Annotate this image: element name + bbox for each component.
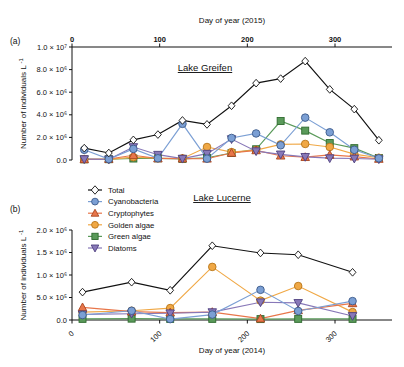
- x-tick-label-a-3: 300: [329, 35, 342, 44]
- data-point: [203, 143, 211, 151]
- panel-a: 0.02.0 × 10⁶4.0 × 10⁶6.0 × 10⁶8.0 × 10⁶1…: [37, 35, 392, 165]
- data-point: [326, 129, 334, 137]
- data-point: [130, 136, 137, 144]
- legend-item-cryptophytes[interactable]: Cryptophytes: [88, 209, 154, 218]
- data-point: [203, 155, 211, 163]
- data-point: [349, 268, 356, 276]
- legend-label-5: Diatoms: [108, 244, 137, 253]
- data-point: [351, 146, 359, 154]
- data-point: [295, 251, 302, 259]
- data-point: [294, 307, 302, 315]
- series-line-golden-algae-b: [83, 267, 353, 312]
- y-tick-label-a-5: 1.0 × 10⁷: [37, 43, 67, 52]
- panel-label-a: (a): [10, 36, 21, 46]
- legend-marker-circle-icon: [92, 198, 99, 205]
- legend-item-total[interactable]: Total: [88, 186, 125, 195]
- data-point: [257, 249, 264, 257]
- panel-b: 0.05.0 × 10⁵1.0 × 10⁶1.5 × 10⁶2.0 × 10⁶0…: [37, 226, 392, 345]
- legend-marker-circle-icon: [92, 221, 99, 228]
- legend-label-2: Cryptophytes: [108, 209, 154, 218]
- legend-item-golden-algae[interactable]: Golden algae: [88, 221, 154, 230]
- series-markers-cryptophytes-a: [80, 146, 383, 163]
- data-point: [301, 140, 309, 148]
- x-tick-label-b-1: 100: [148, 329, 163, 344]
- data-point: [294, 282, 302, 290]
- legend-item-green-algae[interactable]: Green algae: [88, 232, 151, 241]
- series-line-cyanobacteria-b: [83, 290, 353, 319]
- data-point: [349, 297, 357, 305]
- data-point: [204, 121, 211, 129]
- y-tick-label-a-2: 4.0 × 10⁶: [37, 110, 67, 119]
- panel-label-b: (b): [10, 204, 21, 214]
- y-tick-label-b-4: 2.0 × 10⁶: [37, 226, 67, 235]
- y-tick-label-b-3: 1.5 × 10⁶: [37, 248, 67, 257]
- legend-marker-square-icon: [92, 233, 98, 239]
- data-point: [228, 134, 236, 142]
- data-point: [155, 131, 162, 139]
- legend-label-0: Total: [108, 186, 125, 195]
- data-point: [78, 303, 87, 311]
- data-point: [130, 145, 138, 153]
- data-point: [128, 307, 136, 315]
- y-tick-label-a-3: 6.0 × 10⁶: [37, 88, 67, 97]
- x-tick-label-a-0: 0: [70, 35, 74, 44]
- data-point: [257, 286, 265, 294]
- y-tick-label-a-4: 8.0 × 10⁶: [37, 65, 67, 74]
- plot-title-a: Lake Greifen: [178, 62, 232, 73]
- legend-label-1: Cyanobacteria: [108, 197, 159, 206]
- y-axis-title-b: Number of individuals L -1: [18, 229, 28, 321]
- data-point: [277, 142, 285, 150]
- data-point: [154, 155, 162, 163]
- x-tick-label-b-3: 300: [324, 329, 339, 344]
- legend-item-cyanobacteria[interactable]: Cyanobacteria: [88, 197, 159, 206]
- data-point: [208, 311, 216, 319]
- legend-label-3: Golden algae: [108, 221, 154, 230]
- plot-title-b: Lake Lucerne: [193, 192, 251, 203]
- data-point: [79, 288, 86, 296]
- x-tick-label-a-1: 100: [153, 35, 166, 44]
- legend-label-4: Green algae: [108, 232, 151, 241]
- data-point: [128, 278, 135, 286]
- y-tick-label-a-1: 2.0 × 10⁶: [37, 133, 67, 142]
- y-tick-label-b-0: 0.0: [57, 316, 67, 325]
- y-tick-label-a-0: 0.0: [57, 156, 67, 165]
- data-point: [375, 155, 383, 163]
- legend-marker-diamond-icon: [91, 186, 98, 194]
- y-tick-label-b-2: 1.0 × 10⁶: [37, 271, 67, 280]
- legend: TotalCyanobacteriaCryptophytesGolden alg…: [88, 186, 159, 253]
- data-point: [166, 315, 174, 323]
- data-point: [79, 311, 87, 319]
- data-point: [208, 263, 216, 271]
- data-point: [277, 118, 284, 125]
- data-point: [252, 130, 260, 138]
- data-point: [277, 75, 284, 83]
- figure-container: 0.02.0 × 10⁶4.0 × 10⁶6.0 × 10⁶8.0 × 10⁶1…: [0, 0, 404, 367]
- x-tick-label-a-2: 200: [241, 35, 254, 44]
- x-axis-title-b: Day of year (2014): [199, 346, 266, 355]
- x-tick-label-b-2: 200: [236, 329, 251, 344]
- phytoplankton-abundance-figure: 0.02.0 × 10⁶4.0 × 10⁶6.0 × 10⁶8.0 × 10⁶1…: [0, 0, 404, 367]
- data-point: [302, 127, 309, 134]
- x-axis-title-a: Day of year (2015): [199, 16, 266, 25]
- y-tick-label-b-1: 5.0 × 10⁵: [37, 293, 67, 302]
- series-markers-cyanobacteria-b: [79, 286, 357, 323]
- data-point: [295, 315, 302, 322]
- legend-item-diatoms[interactable]: Diatoms: [88, 244, 137, 253]
- series-markers-diatoms-b: [78, 299, 357, 320]
- y-axis-title-a: Number of individuals L -1: [18, 57, 28, 149]
- data-point: [301, 114, 309, 122]
- x-tick-label-b-0: 0: [67, 329, 76, 338]
